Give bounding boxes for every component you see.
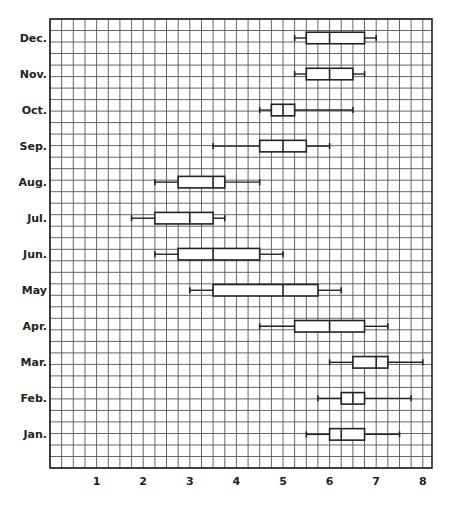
y-axis-labels: Dec.Nov.Oct.Sep.Aug.Jul.Jun.MayApr.Mar.F…: [19, 32, 47, 441]
box-plot-jan: [306, 429, 399, 441]
box-iqr: [306, 32, 364, 44]
y-label: Apr.: [23, 320, 47, 333]
x-tick-label: 8: [419, 475, 427, 488]
box-iqr: [155, 212, 213, 224]
box-plot-jun: [155, 248, 283, 260]
box-plot-sep: [213, 140, 330, 152]
box-plot-aug: [155, 176, 260, 188]
box-plot-nov: [295, 68, 365, 80]
box-plot-jul: [132, 212, 225, 224]
grid-lines: [50, 19, 432, 468]
box-iqr: [178, 176, 225, 188]
box-plot-feb: [318, 393, 411, 405]
x-tick-label: 7: [372, 475, 380, 488]
box-plot-mar: [330, 357, 423, 369]
box-plot-dec: [295, 32, 377, 44]
box-iqr: [178, 248, 260, 260]
y-label: Jan.: [22, 428, 47, 441]
x-tick-label: 1: [93, 475, 101, 488]
y-label: Sep.: [20, 140, 47, 153]
x-tick-label: 5: [279, 475, 287, 488]
x-tick-label: 2: [139, 475, 147, 488]
y-label: Mar.: [21, 356, 47, 369]
y-label: Oct.: [22, 104, 47, 117]
box-plot-may: [190, 284, 341, 296]
box-plot-chart: Dec.Nov.Oct.Sep.Aug.Jul.Jun.MayApr.Mar.F…: [0, 0, 457, 507]
y-label: May: [22, 284, 47, 297]
x-tick-label: 6: [326, 475, 334, 488]
x-axis-labels: 12345678: [93, 475, 427, 488]
box-iqr: [213, 284, 318, 296]
y-label: Aug.: [19, 176, 47, 189]
x-tick-label: 4: [233, 475, 241, 488]
box-iqr: [353, 357, 388, 369]
plot-frame: [50, 19, 432, 468]
box-plot-apr: [260, 321, 388, 333]
y-label: Feb.: [20, 392, 47, 405]
box-plots: [132, 32, 423, 440]
x-tick-label: 3: [186, 475, 194, 488]
y-label: Jun.: [22, 248, 47, 261]
box-iqr: [330, 429, 365, 441]
y-label: Nov.: [20, 68, 47, 81]
y-label: Dec.: [20, 32, 47, 45]
y-label: Jul.: [26, 212, 47, 225]
